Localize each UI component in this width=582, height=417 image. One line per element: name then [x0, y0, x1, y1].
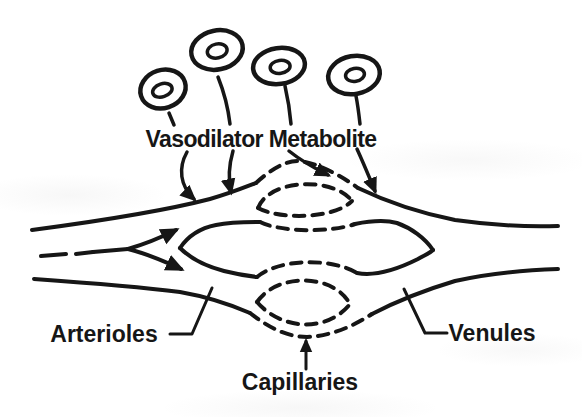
flow-dash [76, 252, 93, 254]
lower-capillary-top [257, 280, 350, 304]
cell-stem-line [285, 86, 291, 124]
label-capillaries: Capillaries [242, 369, 358, 395]
upper-capillary-lens [258, 184, 352, 216]
cell-stem-line [218, 77, 230, 124]
cell-stem-line [356, 96, 360, 124]
lower-capillary-lens [257, 280, 350, 324]
lower-capillary-bottom [257, 302, 350, 324]
metabolite-arrow [182, 152, 194, 199]
cell-outer-ring [135, 64, 190, 114]
metabolite-arrow [229, 151, 233, 192]
flow-arrow-lower [128, 249, 181, 269]
flow-arrow-upper [128, 230, 176, 249]
metabolite-cell-icon [188, 26, 247, 75]
flow-stem [93, 249, 128, 252]
metabolite-cells [135, 26, 383, 125]
upper-capillary-bottom [258, 201, 352, 216]
cell-inner-ring [345, 67, 366, 83]
cell-inner-ring [206, 42, 228, 60]
label-arterioles: Arterioles [50, 321, 157, 347]
flow-dash [41, 254, 66, 256]
central-channel [180, 221, 433, 277]
channel-top-right [355, 221, 433, 250]
cell-inner-ring [269, 59, 291, 75]
blood-flow-arrows [41, 230, 181, 269]
venule-bottom-wall [372, 269, 558, 314]
channel-top-left [180, 222, 260, 248]
cell-outer-ring [251, 45, 308, 88]
diagram-canvas: Vasodilator Metabolite Arterioles Venule… [0, 0, 582, 417]
metabolite-cell-icon [325, 52, 383, 98]
channel-bottom-right [357, 250, 433, 274]
vessel-diagram: Vasodilator Metabolite Arterioles Venule… [0, 0, 582, 417]
metabolite-arrow [357, 149, 375, 191]
label-venules: Venules [449, 320, 536, 346]
cell-inner-ring [151, 81, 174, 100]
cell-outer-ring [325, 52, 383, 98]
arteriole-bottom-wall [34, 279, 250, 313]
label-vasodilator-metabolite: Vasodilator Metabolite [146, 126, 377, 152]
metabolite-cell-icon [251, 45, 308, 88]
channel-bottom-left [180, 248, 257, 277]
upper-capillary-top [258, 184, 352, 208]
cell-stem-line [169, 113, 174, 125]
channel-bottom-dashed-hump [257, 262, 357, 277]
channel-top-dashed-dip [260, 222, 355, 230]
cell-outer-ring [188, 26, 247, 75]
metabolite-cell-icon [135, 64, 190, 114]
